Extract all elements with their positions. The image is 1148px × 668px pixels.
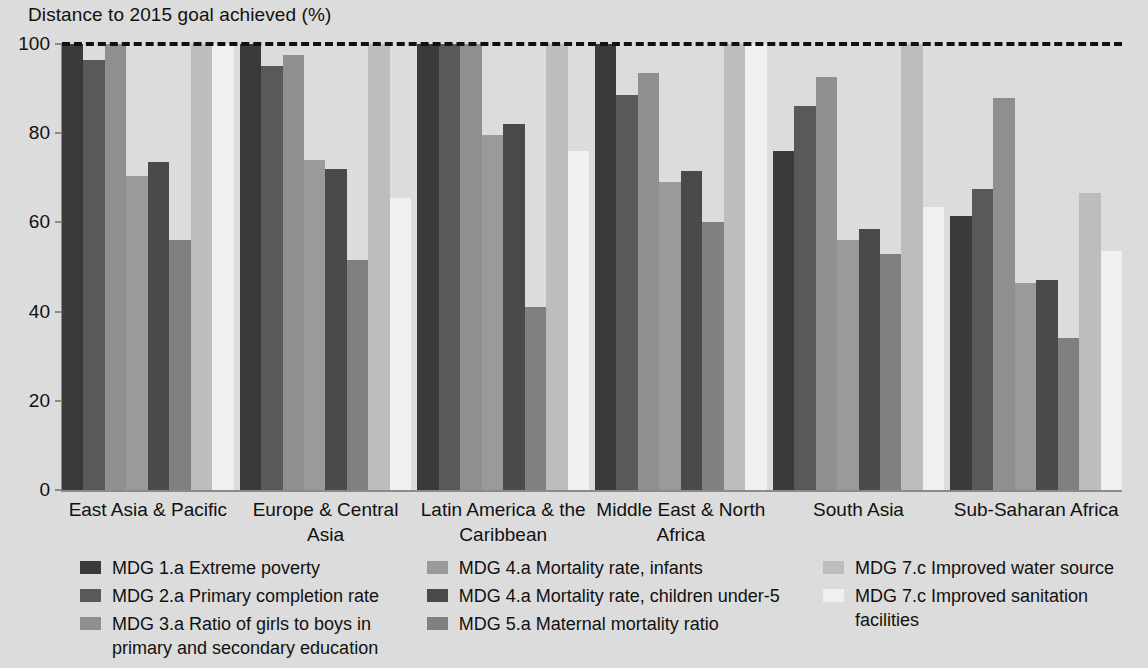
- bar: [859, 229, 880, 490]
- y-axis-tick-label: 40: [0, 301, 62, 323]
- legend-item-label: MDG 7.c Improved water source: [855, 556, 1114, 580]
- goal-line-2015: [62, 42, 1122, 46]
- bar-group: [240, 44, 412, 490]
- bar: [880, 254, 901, 490]
- bar: [325, 169, 346, 490]
- legend-item-label: MDG 4.a Mortality rate, infants: [459, 556, 703, 580]
- y-axis-tick-label: 100: [0, 33, 62, 55]
- bar: [993, 98, 1014, 490]
- bar: [240, 44, 261, 490]
- x-axis-category-label: Sub-Saharan Africa: [950, 494, 1122, 552]
- bar: [546, 44, 567, 490]
- x-axis-category-label: Europe & Central Asia: [240, 494, 412, 552]
- bar: [568, 151, 589, 490]
- bar: [304, 160, 325, 490]
- bar: [681, 171, 702, 490]
- bar: [816, 77, 837, 490]
- legend-swatch-icon: [80, 617, 101, 630]
- y-axis-tick-label: 80: [0, 122, 62, 144]
- legend-item[interactable]: MDG 3.a Ratio of girls to boys in primar…: [80, 612, 427, 657]
- x-axis-category-label: Middle East & North Africa: [595, 494, 767, 552]
- bar: [659, 182, 680, 490]
- bar: [1015, 283, 1036, 490]
- legend-column: MDG 1.a Extreme povertyMDG 2.a Primary c…: [80, 556, 427, 660]
- legend-item[interactable]: MDG 5.a Maternal mortality ratio: [427, 612, 823, 637]
- bar: [503, 124, 524, 490]
- bar: [702, 222, 723, 490]
- bar: [126, 176, 147, 490]
- bar: [1101, 251, 1122, 490]
- bar: [417, 44, 438, 490]
- legend: MDG 1.a Extreme povertyMDG 2.a Primary c…: [80, 556, 1140, 660]
- legend-item-label: MDG 5.a Maternal mortality ratio: [459, 612, 719, 636]
- bar-group: [950, 44, 1122, 490]
- bar-group: [773, 44, 945, 490]
- bar: [616, 95, 637, 490]
- bar: [460, 44, 481, 490]
- legend-item[interactable]: MDG 2.a Primary completion rate: [80, 584, 427, 609]
- bar: [745, 44, 766, 490]
- legend-item-label: MDG 7.c Improved sanitation facilities: [855, 584, 1140, 632]
- legend-swatch-icon: [427, 617, 448, 630]
- legend-swatch-icon: [427, 561, 448, 574]
- legend-item[interactable]: MDG 7.c Improved sanitation facilities: [823, 584, 1140, 632]
- legend-column: MDG 7.c Improved water sourceMDG 7.c Imp…: [823, 556, 1140, 660]
- legend-swatch-icon: [823, 589, 844, 602]
- bar-group: [417, 44, 589, 490]
- bar: [923, 207, 944, 490]
- legend-item-label: MDG 3.a Ratio of girls to boys in primar…: [112, 612, 427, 660]
- bar: [347, 260, 368, 490]
- bar: [169, 240, 190, 490]
- bar-groups: [62, 44, 1122, 490]
- bar: [1036, 280, 1057, 490]
- bar: [261, 66, 282, 490]
- bar: [191, 44, 212, 490]
- legend-swatch-icon: [80, 589, 101, 602]
- bar: [368, 44, 389, 490]
- bar: [83, 60, 104, 490]
- bar: [148, 162, 169, 490]
- legend-item-label: MDG 2.a Primary completion rate: [112, 584, 379, 608]
- y-axis-tick-label: 60: [0, 211, 62, 233]
- legend-item[interactable]: MDG 1.a Extreme poverty: [80, 556, 427, 581]
- legend-swatch-icon: [80, 561, 101, 574]
- bar: [283, 55, 304, 490]
- bar: [638, 73, 659, 490]
- x-axis-category-label: East Asia & Pacific: [62, 494, 234, 552]
- bar: [773, 151, 794, 490]
- bar-group: [595, 44, 767, 490]
- bar: [105, 44, 126, 490]
- legend-swatch-icon: [427, 589, 448, 602]
- bar: [595, 44, 616, 490]
- y-axis: 020406080100: [0, 0, 62, 492]
- legend-item-label: MDG 4.a Mortality rate, children under-5: [459, 584, 780, 608]
- bar: [390, 198, 411, 490]
- bar: [482, 135, 503, 490]
- bar: [439, 44, 460, 490]
- bar: [950, 216, 971, 490]
- bar: [837, 240, 858, 490]
- bar: [794, 106, 815, 490]
- bar: [212, 44, 233, 490]
- bar: [724, 44, 745, 490]
- bar: [972, 189, 993, 490]
- bar: [1058, 338, 1079, 490]
- legend-swatch-icon: [823, 561, 844, 574]
- x-axis-line: [61, 490, 1122, 492]
- legend-item[interactable]: MDG 4.a Mortality rate, children under-5: [427, 584, 823, 609]
- bar: [901, 44, 922, 490]
- legend-item-label: MDG 1.a Extreme poverty: [112, 556, 320, 580]
- bar: [525, 307, 546, 490]
- x-axis-labels: East Asia & PacificEurope & Central Asia…: [62, 494, 1122, 552]
- y-axis-tick-label: 20: [0, 390, 62, 412]
- x-axis-category-label: Latin America & the Caribbean: [417, 494, 589, 552]
- legend-column: MDG 4.a Mortality rate, infantsMDG 4.a M…: [427, 556, 823, 660]
- page-title: Distance to 2015 goal achieved (%): [28, 4, 331, 26]
- chart-root: Distance to 2015 goal achieved (%) 02040…: [0, 0, 1148, 668]
- x-axis-category-label: South Asia: [773, 494, 945, 552]
- legend-item[interactable]: MDG 4.a Mortality rate, infants: [427, 556, 823, 581]
- legend-item[interactable]: MDG 7.c Improved water source: [823, 556, 1140, 581]
- bar-group: [62, 44, 234, 490]
- bar: [1079, 193, 1100, 490]
- y-axis-tick-label: 0: [0, 479, 62, 501]
